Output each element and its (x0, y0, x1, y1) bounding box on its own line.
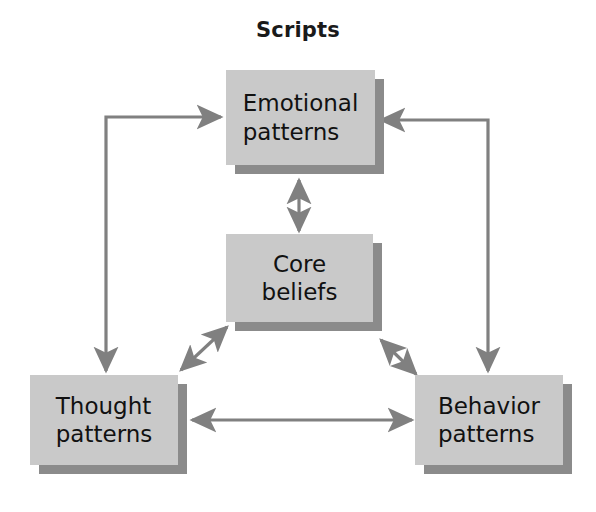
node-core-beliefs[interactable]: Core beliefs (226, 234, 373, 322)
node-thought-patterns[interactable]: Thought patterns (30, 375, 178, 465)
connector-core-thought (181, 327, 227, 370)
node-label: Thought patterns (56, 392, 153, 448)
diagram-canvas: Scripts (0, 0, 596, 512)
connector-core-behavior (381, 340, 416, 374)
connector-emotional-to-thought (106, 117, 221, 371)
node-face: Behavior patterns (415, 375, 563, 465)
node-label: Behavior patterns (438, 392, 540, 448)
node-face: Thought patterns (30, 375, 178, 465)
node-emotional-patterns[interactable]: Emotional patterns (226, 70, 375, 165)
node-behavior-patterns[interactable]: Behavior patterns (415, 375, 563, 465)
node-label: Emotional patterns (243, 89, 359, 145)
connector-behavior-to-emotional (381, 120, 488, 371)
node-face: Emotional patterns (226, 70, 375, 165)
node-label: Core beliefs (262, 250, 338, 306)
node-face: Core beliefs (226, 234, 373, 322)
